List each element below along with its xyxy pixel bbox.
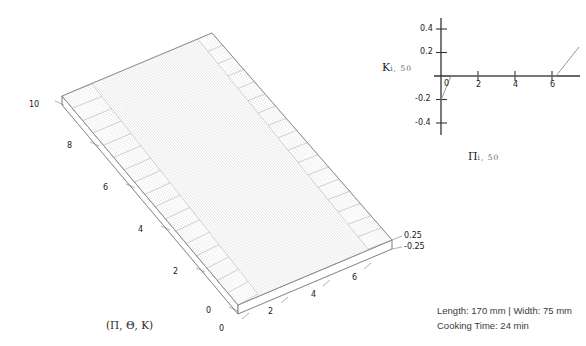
specimen-info-block: Length: 170 mm | Width: 75 mm Cooking Ti…: [437, 303, 572, 333]
line-plot-x-axis-label: Πi, 50: [468, 151, 499, 162]
yp-tick-0p2: 0.2: [420, 48, 433, 56]
line-plot-y-axis-label: Ki, 50: [382, 62, 412, 73]
k-symbol-subscript: i, 50: [390, 64, 412, 73]
yp-tick-0p4: 0.4: [420, 25, 433, 33]
xp-tick-0: 0: [444, 80, 449, 88]
yp-tick-neg0p2: -0.2: [415, 95, 431, 103]
specimen-dimensions-text: Length: 170 mm | Width: 75 mm: [437, 303, 572, 318]
pi-symbol: Π: [468, 150, 478, 163]
specimen-cooking-time-text: Cooking Time: 24 min: [437, 318, 572, 333]
k-symbol: K: [382, 61, 390, 74]
xp-tick-4: 4: [513, 81, 518, 89]
line-plot-series: [441, 47, 579, 100]
yp-tick-neg0p4: -0.4: [415, 119, 431, 127]
xp-tick-6: 6: [550, 81, 555, 89]
line-plot-graphics: [0, 0, 586, 346]
figure-canvas: 10 8 6 4 2 0 0 2 4 6 0.25 -0.25 (Π, Θ, K…: [0, 0, 586, 346]
pi-symbol-subscript: i, 50: [478, 153, 500, 162]
xp-tick-2: 2: [476, 81, 481, 89]
